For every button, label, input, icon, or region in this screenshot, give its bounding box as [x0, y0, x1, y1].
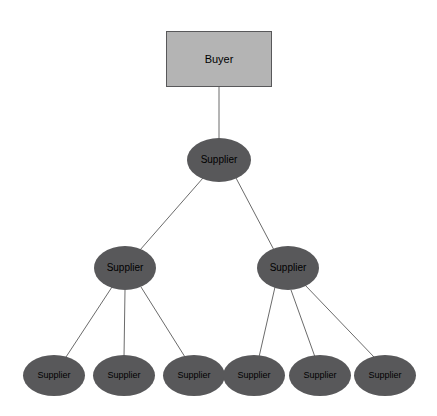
- node-label-s3a: Supplier: [37, 371, 70, 380]
- node-s2a[interactable]: Supplier: [94, 246, 156, 290]
- edge-s2b-to-s3f: [305, 285, 374, 357]
- node-label-s3e: Supplier: [303, 371, 336, 380]
- node-label-s3f: Supplier: [368, 371, 401, 380]
- node-s3a[interactable]: Supplier: [23, 355, 85, 396]
- node-label-s3d: Supplier: [237, 371, 270, 380]
- supplier-network-diagram: BuyerSupplierSupplierSupplierSupplierSup…: [0, 0, 437, 416]
- node-buyer[interactable]: Buyer: [166, 31, 272, 87]
- node-s2b[interactable]: Supplier: [257, 246, 319, 290]
- edge-s2b-to-s3e: [291, 290, 315, 357]
- node-label-s3c: Supplier: [177, 371, 210, 380]
- node-label-s2a: Supplier: [107, 263, 144, 273]
- node-s3d[interactable]: Supplier: [223, 355, 285, 396]
- edge-s2b-to-s3d: [259, 287, 275, 357]
- node-s3f[interactable]: Supplier: [354, 355, 416, 396]
- edge-s1-to-s2a: [140, 178, 203, 250]
- node-s3c[interactable]: Supplier: [163, 355, 225, 396]
- node-s3b[interactable]: Supplier: [93, 355, 155, 396]
- edge-s1-to-s2b: [236, 178, 274, 250]
- edge-s2a-to-s3a: [66, 287, 112, 357]
- node-label-s3b: Supplier: [107, 371, 140, 380]
- node-label-s2b: Supplier: [270, 263, 307, 273]
- node-label-s1: Supplier: [201, 155, 238, 165]
- node-s3e[interactable]: Supplier: [289, 355, 351, 396]
- node-label-buyer: Buyer: [205, 54, 234, 65]
- edge-s2a-to-s3b: [124, 290, 125, 357]
- edge-s2a-to-s3c: [141, 287, 185, 357]
- node-s1[interactable]: Supplier: [187, 138, 251, 182]
